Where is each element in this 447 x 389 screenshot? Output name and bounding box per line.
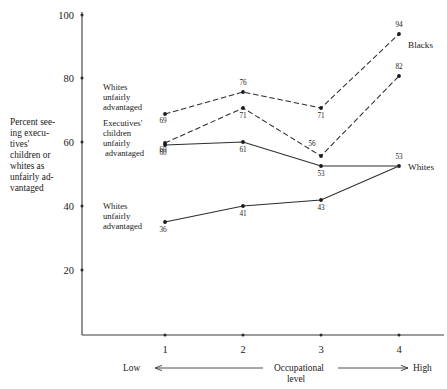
x-tick-dot-1 bbox=[164, 334, 167, 337]
annotation-line: advantaged bbox=[105, 148, 145, 158]
y-tick-label-20: 20 bbox=[64, 265, 75, 276]
annotation-whites-unfairly-advantaged-top: Whites unfairly advantaged bbox=[103, 82, 143, 112]
data-point-label: 71 bbox=[239, 112, 247, 120]
y-axis-label: Percent see- ing execu- tives' children … bbox=[10, 117, 55, 193]
y-axis-label-line-6: vantaged bbox=[10, 183, 44, 193]
data-point-label: 71 bbox=[317, 112, 325, 120]
annotation-executives-children-unfairly-advantaged: Executives' children unfairly advantaged bbox=[103, 118, 145, 158]
data-point bbox=[319, 198, 323, 202]
series-end-label-blacks: Blacks bbox=[408, 40, 433, 50]
series-whites-exec-children: 60 61 53 53 bbox=[159, 140, 403, 178]
data-point-label: 43 bbox=[317, 204, 325, 212]
data-point-label: 36 bbox=[159, 226, 167, 234]
data-point-label: 56 bbox=[308, 140, 316, 148]
y-axis-label-line-3: children or bbox=[10, 150, 51, 160]
x-axis-high-label: High bbox=[413, 363, 432, 373]
y-tick-dot-40 bbox=[81, 205, 84, 208]
x-axis-title-line2: level bbox=[287, 374, 306, 384]
x-tick-dot-3 bbox=[320, 334, 323, 337]
data-point bbox=[163, 112, 167, 116]
x-tick-label-2: 2 bbox=[240, 344, 245, 355]
annotation-line: advantaged bbox=[103, 102, 143, 112]
data-point bbox=[397, 32, 401, 36]
data-point bbox=[319, 164, 323, 168]
data-point bbox=[241, 106, 245, 110]
data-point-label: 53 bbox=[317, 170, 325, 178]
annotation-line: Whites bbox=[103, 201, 128, 211]
series-line-blacks-whites-unfair bbox=[165, 34, 399, 114]
y-axis-label-line-4: whites as bbox=[10, 161, 45, 171]
annotation-whites-unfairly-advantaged-bottom: Whites unfairly advantaged bbox=[103, 201, 143, 231]
y-axis-label-line-0: Percent see- bbox=[10, 117, 55, 127]
x-tick-label-4: 4 bbox=[396, 344, 402, 355]
annotation-line: children bbox=[103, 128, 132, 138]
data-point-label: 41 bbox=[239, 210, 247, 218]
annotation-line: unfairly bbox=[103, 92, 131, 102]
annotation-line: Whites bbox=[103, 82, 128, 92]
data-point bbox=[241, 204, 245, 208]
annotation-line: Executives' bbox=[103, 118, 143, 128]
y-axis-label-line-5: unfairly ad- bbox=[10, 172, 54, 182]
data-point bbox=[241, 140, 245, 144]
data-point bbox=[319, 154, 323, 158]
annotation-line: advantaged bbox=[103, 221, 143, 231]
x-axis-ticks: 1 2 3 4 bbox=[162, 334, 402, 356]
annotation-line: unfairly bbox=[103, 211, 131, 221]
data-point bbox=[319, 106, 323, 110]
data-point-label: 69 bbox=[159, 117, 167, 125]
annotation-line: unfairly bbox=[103, 138, 131, 148]
series-end-label-whites: Whites bbox=[408, 162, 434, 172]
x-tick-label-3: 3 bbox=[318, 344, 323, 355]
x-axis-low-label: Low bbox=[123, 363, 140, 373]
data-point-label: 61 bbox=[239, 146, 247, 154]
y-axis-label-line-2: tives' bbox=[10, 139, 30, 149]
data-point bbox=[397, 74, 401, 78]
data-point bbox=[241, 90, 245, 94]
y-tick-label-40: 40 bbox=[64, 201, 75, 212]
y-tick-label-60: 60 bbox=[64, 137, 75, 148]
x-axis-caption: Low Occupational level High bbox=[123, 363, 432, 384]
y-tick-label-80: 80 bbox=[64, 73, 75, 84]
chart-svg: Percent see- ing execu- tives' children … bbox=[0, 0, 447, 389]
y-axis-label-line-1: ing execu- bbox=[10, 128, 49, 138]
y-tick-dot-100 bbox=[81, 14, 84, 17]
x-tick-dot-2 bbox=[242, 334, 245, 337]
data-point bbox=[163, 220, 167, 224]
y-tick-label-100: 100 bbox=[58, 10, 74, 21]
chart-container: Percent see- ing execu- tives' children … bbox=[0, 0, 447, 389]
series-line-whites-exec-children bbox=[165, 142, 399, 166]
y-tick-dot-20 bbox=[81, 269, 84, 272]
y-axis-ticks: 100 80 60 40 20 bbox=[58, 10, 83, 276]
y-tick-dot-80 bbox=[81, 77, 84, 80]
data-point-label: 53 bbox=[395, 153, 403, 161]
data-point-label: 94 bbox=[395, 21, 403, 29]
x-tick-label-1: 1 bbox=[162, 344, 167, 355]
data-point-label: 60 bbox=[159, 149, 167, 157]
data-point bbox=[163, 143, 167, 147]
data-point-label: 76 bbox=[239, 79, 247, 87]
x-axis-title-line1: Occupational bbox=[274, 363, 324, 373]
series-line-whites-whites-unfair bbox=[165, 166, 399, 222]
series-whites-whites-unfair: 36 41 43 bbox=[159, 166, 399, 234]
data-point-label: 82 bbox=[395, 63, 403, 71]
y-tick-dot-60 bbox=[81, 141, 84, 144]
x-tick-dot-4 bbox=[398, 334, 401, 337]
